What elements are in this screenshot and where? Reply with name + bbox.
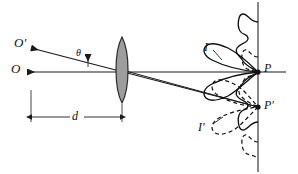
label-angle-theta: θ	[76, 48, 81, 58]
converging-lens	[116, 37, 128, 103]
optics-diagram-figure: O′ O θ d I I′ P P′	[0, 0, 298, 174]
label-object-axis: O	[11, 62, 20, 75]
label-image-point-P-prime: P′	[264, 99, 274, 111]
label-distance-d: d	[72, 110, 78, 122]
image-point-P-prime	[255, 104, 260, 109]
label-intensity-I-prime: I′	[198, 121, 205, 133]
label-object-off-axis: O′	[14, 36, 26, 49]
label-intensity-I: I	[204, 41, 208, 53]
leader-line-I	[213, 50, 222, 60]
image-point-P	[255, 69, 260, 74]
label-image-point-P: P	[264, 62, 271, 74]
diagram-canvas	[0, 0, 298, 174]
